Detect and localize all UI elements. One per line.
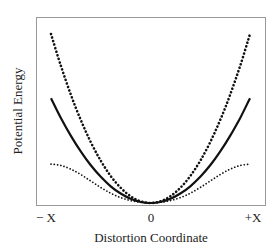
curve-dotted-heavy [51, 34, 250, 203]
curve-solid [51, 98, 250, 203]
plot-frame [37, 18, 266, 206]
x-tick-plus: +X [245, 210, 262, 225]
potential-energy-chart: − X 0 +X Distortion Coordinate Potential… [0, 0, 280, 248]
x-axis-label: Distortion Coordinate [94, 230, 208, 245]
x-tick-zero: 0 [148, 210, 155, 225]
curves [51, 34, 250, 203]
x-tick-minus: − X [36, 210, 57, 225]
y-axis-label: Potential Energy [10, 67, 25, 154]
curve-dotted-fine [51, 164, 250, 203]
